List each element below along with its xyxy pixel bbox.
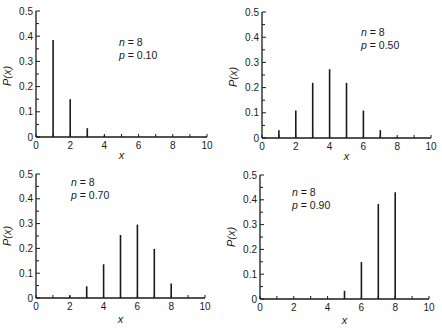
binomial-figure: 00.10.20.30.40.50246810xP(x)n = 8p = 0.1…: [0, 0, 442, 334]
y-tick-label: 0.4: [19, 31, 33, 42]
x-axis-label: x: [117, 313, 124, 325]
x-tick-label: 0: [33, 140, 39, 151]
chart-panel-p010: 00.10.20.30.40.50246810xP(x)n = 8p = 0.1…: [1, 6, 213, 162]
y-tick-label: 0.3: [19, 56, 33, 67]
y-tick-label: 0.5: [245, 7, 259, 18]
x-tick-label: 4: [102, 140, 108, 151]
y-tick-label: 0.3: [245, 57, 259, 68]
x-axis-label: x: [118, 149, 125, 161]
x-tick-label: 10: [423, 302, 435, 313]
y-tick-label: 0.4: [19, 193, 33, 204]
annotation-n: n = 8: [119, 36, 143, 48]
x-tick-label: 2: [293, 141, 299, 152]
y-axis-label: P(x): [227, 67, 239, 88]
x-axis-label: x: [341, 314, 348, 326]
y-axis-label: P(x): [1, 226, 13, 247]
y-tick-label: 0.3: [19, 218, 33, 229]
x-tick-label: 6: [361, 141, 367, 152]
y-tick-label: 0.3: [243, 219, 257, 230]
x-tick-label: 8: [392, 302, 398, 313]
x-tick-label: 10: [201, 140, 213, 151]
annotation-n: n = 8: [71, 176, 95, 188]
x-tick-label: 2: [291, 302, 297, 313]
x-tick-label: 0: [259, 141, 265, 152]
x-tick-label: 0: [257, 302, 263, 313]
y-tick-label: 0.5: [19, 169, 33, 180]
chart-panel-p090: 00.10.20.30.40.50246810xP(x)n = 8p = 0.9…: [225, 170, 435, 327]
x-tick-label: 2: [67, 140, 73, 151]
x-tick-label: 0: [33, 301, 39, 312]
y-axis-label: P(x): [1, 66, 13, 87]
y-tick-label: 0.1: [243, 269, 257, 280]
y-tick-label: 0.1: [245, 107, 259, 118]
x-tick-label: 10: [425, 141, 437, 152]
y-tick-label: 0.2: [19, 243, 33, 254]
x-tick-label: 4: [325, 302, 331, 313]
y-axis-label: P(x): [225, 227, 237, 248]
x-tick-label: 10: [199, 301, 211, 312]
x-tick-label: 8: [394, 141, 400, 152]
y-tick-label: 0.1: [19, 106, 33, 117]
chart-panel-p070: 00.10.20.30.40.50246810xP(x)n = 8p = 0.7…: [1, 169, 211, 326]
x-tick-label: 6: [136, 140, 142, 151]
x-tick-label: 4: [101, 301, 107, 312]
x-tick-label: 6: [359, 302, 365, 313]
annotation-p: p = 0.90: [291, 199, 330, 211]
y-tick-label: 0.2: [19, 81, 33, 92]
y-tick-label: 0.2: [243, 244, 257, 255]
y-tick-label: 0.4: [243, 194, 257, 205]
annotation-p: p = 0.50: [360, 39, 399, 51]
x-tick-label: 6: [135, 301, 141, 312]
y-tick-label: 0.1: [19, 268, 33, 279]
x-tick-label: 4: [327, 141, 333, 152]
annotation-p: p = 0.10: [118, 49, 157, 61]
annotation-n: n = 8: [361, 26, 385, 38]
x-tick-label: 2: [67, 301, 73, 312]
annotation-p: p = 0.70: [70, 189, 109, 201]
y-tick-label: 0.2: [245, 82, 259, 93]
x-axis-label: x: [343, 150, 350, 162]
figure-canvas: 00.10.20.30.40.50246810xP(x)n = 8p = 0.1…: [0, 0, 442, 334]
y-tick-label: 0.5: [19, 6, 33, 17]
annotation-n: n = 8: [292, 186, 316, 198]
x-tick-label: 8: [168, 301, 174, 312]
y-tick-label: 0.4: [245, 32, 259, 43]
x-tick-label: 8: [170, 140, 176, 151]
y-tick-label: 0.5: [243, 170, 257, 181]
chart-panel-p050: 00.10.20.30.40.50246810xP(x)n = 8p = 0.5…: [227, 7, 437, 163]
